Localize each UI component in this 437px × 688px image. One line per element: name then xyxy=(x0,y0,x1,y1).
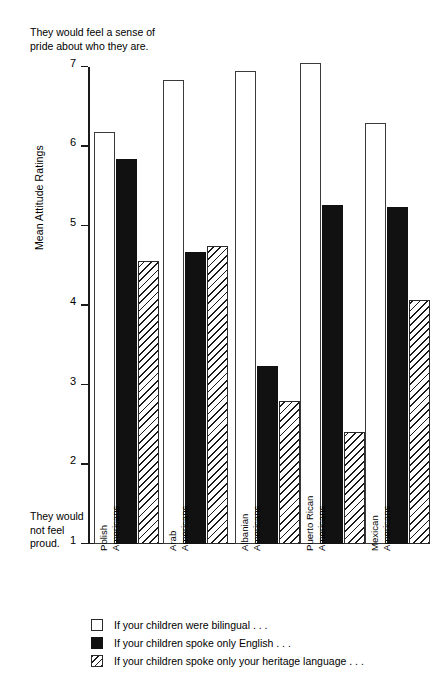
legend-label: If your children were bilingual . . . xyxy=(114,619,268,631)
category-label: Polish Americans xyxy=(98,431,121,551)
bar xyxy=(409,300,430,544)
y-tick-3: 3 xyxy=(81,384,88,385)
category-label: Albanian Americans xyxy=(239,431,262,551)
legend-item: If your children spoke only your heritag… xyxy=(91,652,364,670)
category-label: Puerto Rican Americans xyxy=(304,431,327,551)
bar xyxy=(207,246,228,544)
legend-swatch-black xyxy=(91,637,103,649)
y-tick-5: 5 xyxy=(81,225,88,226)
y-tick-label: 3 xyxy=(56,376,76,387)
y-tick-label: 2 xyxy=(56,455,76,466)
y-tick-label: 7 xyxy=(56,58,76,69)
y-tick-label: 4 xyxy=(56,296,76,307)
category-label: Mexican Americans xyxy=(369,431,392,551)
y-tick-1: 1 xyxy=(81,543,88,544)
top-caption: They would feel a sense of pride about w… xyxy=(30,26,260,53)
y-tick-6: 6 xyxy=(81,145,88,146)
y-tick-4: 4 xyxy=(81,304,88,305)
bar xyxy=(138,261,159,544)
bar xyxy=(279,401,300,544)
y-tick-label: 1 xyxy=(56,535,76,546)
legend-item: If your children spoke only English . . … xyxy=(91,634,364,652)
legend-swatch-hatch xyxy=(91,655,103,667)
y-tick-label: 6 xyxy=(56,137,76,148)
legend-item: If your children were bilingual . . . xyxy=(91,616,364,634)
legend-label: If your children spoke only your heritag… xyxy=(114,655,364,667)
category-label: Arab Americans xyxy=(167,431,190,551)
legend-label: If your children spoke only English . . … xyxy=(114,637,291,649)
chart-legend: If your children were bilingual . . .If … xyxy=(91,616,364,670)
y-tick-2: 2 xyxy=(81,463,88,464)
y-axis-line xyxy=(88,67,90,544)
y-tick-label: 5 xyxy=(56,217,76,228)
legend-swatch-white xyxy=(91,619,103,631)
y-tick-7: 7 xyxy=(81,66,88,67)
y-axis-title: Mean Attitude Ratings xyxy=(33,145,45,250)
chart-plot-area: 7654321 Polish AmericansArab AmericansAl… xyxy=(88,67,425,544)
bar xyxy=(344,432,365,544)
